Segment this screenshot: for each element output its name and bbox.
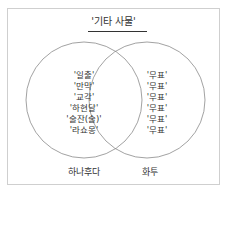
left-item: '라쇼몽' (44, 125, 124, 136)
left-set-label: 하나후다 (44, 165, 124, 178)
left-item: '일출' (44, 70, 124, 81)
left-item: '하현달' (44, 103, 124, 114)
left-item: '교각' (44, 92, 124, 103)
left-item: '술잔(술)' (44, 114, 124, 125)
left-item: '만막' (44, 81, 124, 92)
right-item: '무표' (132, 70, 182, 81)
left-set-items: '일출' '만막' '교각' '하현달' '술잔(술)' '라쇼몽' (44, 70, 124, 136)
right-item: '무표' (132, 81, 182, 92)
right-set-items: '무표' '무표' '무표' '무표' '무표' '무표' (132, 70, 182, 136)
right-item: '무표' (132, 92, 182, 103)
right-item: '무표' (132, 114, 182, 125)
right-item: '무표' (132, 103, 182, 114)
right-item: '무표' (132, 125, 182, 136)
right-set-label: 화투 (125, 165, 175, 178)
